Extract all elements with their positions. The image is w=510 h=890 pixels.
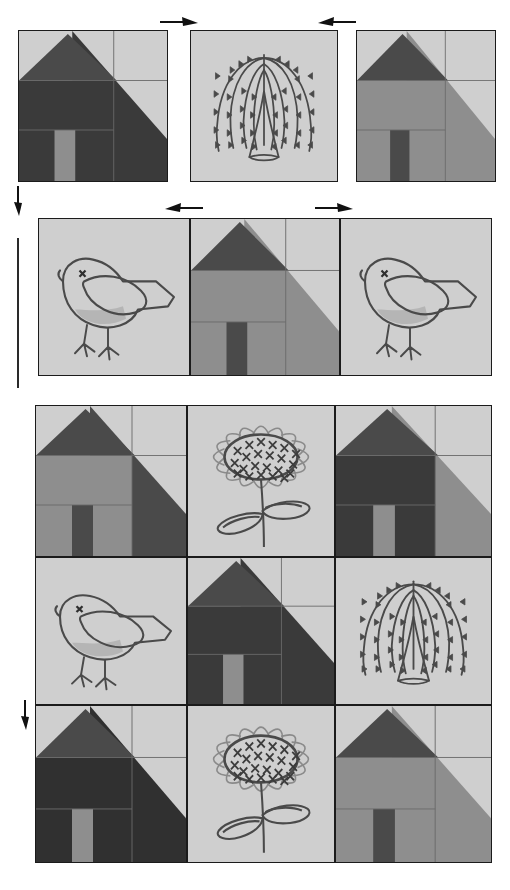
arrow-right-row1-left: [160, 14, 198, 30]
arrow-left-row2-left: [165, 200, 203, 216]
house-block-dark: [335, 405, 492, 557]
vertical-guide-line: [17, 238, 19, 388]
house-block-dark: [187, 557, 335, 705]
quilt-diagram-canvas: [0, 0, 510, 890]
house-block-mid: [356, 30, 496, 182]
house-block-mid: [335, 705, 492, 863]
willow-tree-block: [335, 557, 492, 705]
house-block-darkest: [35, 705, 187, 863]
arrow-down-left-upper: [10, 186, 26, 216]
willow-tree-block: [190, 30, 338, 182]
bird-block: [38, 218, 190, 376]
arrow-left-row1-right: [318, 14, 356, 30]
arrow-down-left-lower: [17, 700, 33, 730]
house-block-mid: [190, 218, 340, 376]
arrow-right-row2-right: [315, 200, 353, 216]
house-block-mid: [35, 405, 187, 557]
bird-block: [35, 557, 187, 705]
sunflower-block: [187, 405, 335, 557]
sunflower-block: [187, 705, 335, 863]
house-block-dark: [18, 30, 168, 182]
bird-block: [340, 218, 492, 376]
